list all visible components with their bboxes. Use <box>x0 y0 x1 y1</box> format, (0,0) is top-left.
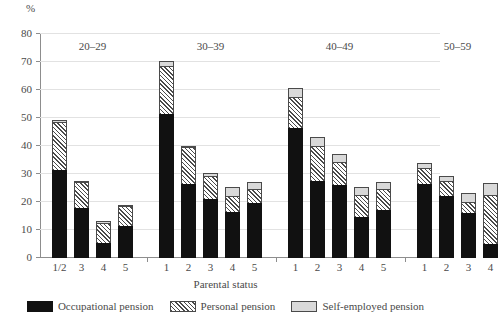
bar-40-49-3 <box>332 33 347 257</box>
bar-30-39-4 <box>225 33 240 257</box>
y-axis-tick-label: 30 <box>2 167 32 179</box>
group-separator-tick <box>276 257 277 262</box>
bar-40-49-2 <box>310 33 325 257</box>
bar-segment-occ <box>354 217 369 258</box>
bar-20-29-4 <box>96 33 111 257</box>
bar-40-49-4 <box>354 33 369 257</box>
y-axis-tick-mark <box>36 117 40 118</box>
bar-segment-occ <box>181 184 196 258</box>
x-axis-tick-label: 3 <box>337 261 343 273</box>
bar-30-39-5 <box>247 33 262 257</box>
plot-area <box>40 33 440 257</box>
bar-50-59-2 <box>439 33 454 257</box>
y-axis-tick-label: 60 <box>2 83 32 95</box>
x-axis-tick-label: 4 <box>230 261 236 273</box>
y-axis-tick-mark <box>36 229 40 230</box>
bar-30-39-3 <box>203 33 218 257</box>
bar-segment-occ <box>96 243 111 258</box>
bar-segment-occ <box>310 181 325 258</box>
x-axis-tick-label: 1 <box>422 261 428 273</box>
legend-item-occ: Occupational pension <box>27 300 154 312</box>
y-axis-tick-mark <box>36 173 40 174</box>
y-axis-tick-mark <box>36 89 40 90</box>
bar-segment-pers <box>417 168 432 185</box>
bar-segment-pers <box>310 146 325 182</box>
x-axis-tick-label: 4 <box>101 261 107 273</box>
y-axis-tick-mark <box>36 145 40 146</box>
legend-swatch-occ <box>27 301 53 312</box>
group-header-20-29: 20–29 <box>79 40 107 52</box>
y-axis-tick-mark <box>36 33 40 34</box>
bar-segment-occ <box>74 208 89 258</box>
bar-50-59-1 <box>417 33 432 257</box>
y-axis-tick-mark <box>36 61 40 62</box>
x-axis-tick-label: 4 <box>359 261 365 273</box>
bar-segment-occ <box>288 128 303 258</box>
chart-legend: Occupational pensionPersonal pensionSelf… <box>0 300 451 312</box>
bar-40-49-1 <box>288 33 303 257</box>
y-axis-tick-label: 70 <box>2 55 32 67</box>
bar-segment-pers <box>52 122 67 171</box>
bar-segment-occ <box>417 184 432 258</box>
x-axis-title: Parental status <box>0 278 451 290</box>
bar-segment-occ <box>483 244 498 258</box>
x-axis-tick-label: 1/2 <box>52 261 66 273</box>
bar-20-29-1-2 <box>52 33 67 257</box>
legend-swatch-pers <box>170 301 196 312</box>
y-axis-tick-label: 20 <box>2 195 32 207</box>
legend-label: Self-employed pension <box>322 300 424 312</box>
x-axis-tick-label: 2 <box>315 261 321 273</box>
bar-50-59-4 <box>483 33 498 257</box>
legend-label: Personal pension <box>201 300 276 312</box>
bar-segment-occ <box>52 170 67 258</box>
bar-segment-pers <box>74 182 89 209</box>
group-header-50-59: 50–59 <box>444 40 472 52</box>
bar-segment-pers <box>483 195 498 245</box>
bar-segment-pers <box>247 189 262 204</box>
bar-30-39-1 <box>159 33 174 257</box>
legend-item-pers: Personal pension <box>170 300 276 312</box>
x-axis-tick-label: 2 <box>444 261 450 273</box>
group-header-30-39: 30–39 <box>197 40 225 52</box>
legend-label: Occupational pension <box>58 300 154 312</box>
bar-segment-pers <box>181 147 196 185</box>
bar-40-49-5 <box>376 33 391 257</box>
x-axis-tick-label: 4 <box>488 261 494 273</box>
legend-swatch-self <box>291 301 317 312</box>
bar-segment-pers <box>376 189 391 211</box>
x-axis-tick-label: 5 <box>252 261 258 273</box>
group-header-40-49: 40–49 <box>326 40 354 52</box>
group-separator-tick <box>147 257 148 262</box>
x-axis-tick-label: 1 <box>164 261 170 273</box>
y-axis-tick-label: 10 <box>2 223 32 235</box>
bar-segment-pers <box>288 97 303 129</box>
legend-item-self: Self-employed pension <box>291 300 424 312</box>
bar-20-29-3 <box>74 33 89 257</box>
bar-segment-pers <box>203 176 218 200</box>
bar-segment-pers <box>332 162 347 186</box>
bar-segment-occ <box>203 199 218 258</box>
y-axis-tick-label: 40 <box>2 139 32 151</box>
bar-segment-occ <box>247 203 262 258</box>
bar-20-29-5 <box>118 33 133 257</box>
bar-segment-occ <box>376 210 391 258</box>
bar-50-59-3 <box>461 33 476 257</box>
bar-segment-pers <box>225 196 240 213</box>
y-axis-tick-mark <box>36 257 40 258</box>
group-separator-tick <box>405 257 406 262</box>
bar-segment-occ <box>461 213 476 258</box>
y-axis-unit-label: % <box>26 2 35 14</box>
bar-segment-occ <box>118 226 133 258</box>
bar-segment-occ <box>332 185 347 258</box>
x-axis-tick-label: 5 <box>381 261 387 273</box>
bar-segment-pers <box>96 223 111 244</box>
x-axis-tick-label: 3 <box>208 261 214 273</box>
x-axis-tick-label: 3 <box>79 261 85 273</box>
bar-30-39-2 <box>181 33 196 257</box>
bar-segment-occ <box>439 196 454 258</box>
x-axis-tick-label: 1 <box>293 261 299 273</box>
y-axis-tick-label: 80 <box>2 27 32 39</box>
y-axis-tick-label: 0 <box>2 251 32 263</box>
x-axis-tick-label: 5 <box>123 261 129 273</box>
